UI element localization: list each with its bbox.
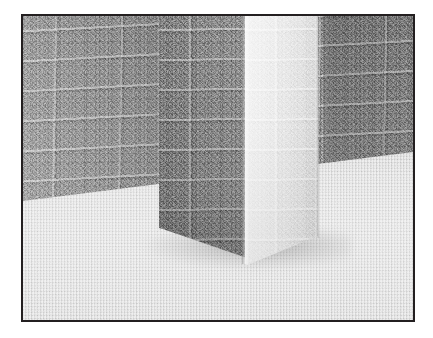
screenshot-canvas: Stone pillar and masonry wall render A s… xyxy=(0,0,433,338)
material-label-pillar: same block masonry, coarse chiselled sur… xyxy=(0,0,1,1)
rendered-scene xyxy=(23,16,413,320)
object-label-back-wall: Masonry block wall xyxy=(0,0,1,1)
material-label-ground: fine speckled noise, matte xyxy=(0,0,1,1)
image-frame xyxy=(21,14,415,322)
object-label-pillar: Square stone pillar xyxy=(0,0,1,1)
object-label-contact-shadow: Contact shadow at pillar base xyxy=(0,0,1,1)
material-label-wall: rough bump-mapped stone blocks with mort… xyxy=(0,0,1,1)
scene-lighting-description: directional key light from the upper rig… xyxy=(0,0,1,1)
object-label-ground: Speckled ground plane xyxy=(0,0,1,1)
scene-title: Stone pillar and masonry wall render xyxy=(0,0,1,1)
pillar-contact-shadow xyxy=(141,230,351,270)
scene-description: A square stone pillar stands on a speckl… xyxy=(0,0,1,1)
frame-style-label: thin dark rectangular border xyxy=(0,0,1,1)
